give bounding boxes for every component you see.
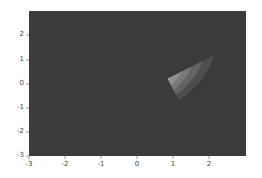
y-tick-label: 1 (4, 56, 24, 63)
plot-background (29, 11, 246, 156)
x-tick-label: 1 (163, 161, 183, 168)
y-tick-label: 0 (4, 80, 24, 87)
x-tick-label: 0 (127, 161, 147, 168)
x-tick-label: 2 (199, 161, 219, 168)
contour-chart: 2 1 0 -1 -2 -3 -3 -2 -1 0 1 2 (0, 0, 262, 178)
y-tick-label: 2 (4, 31, 24, 38)
x-tick-label: -2 (55, 161, 75, 168)
y-tick-label: -3 (4, 152, 24, 159)
x-tick-label: -1 (91, 161, 111, 168)
y-tick-label: -1 (4, 104, 24, 111)
plot-area (0, 0, 262, 178)
x-tick-label: -3 (19, 161, 39, 168)
y-tick-label: -2 (4, 128, 24, 135)
